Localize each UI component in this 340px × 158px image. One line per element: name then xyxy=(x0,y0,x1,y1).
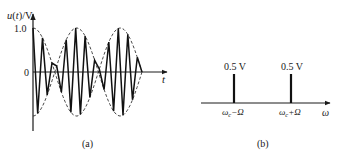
omega-axis-label: ω xyxy=(322,107,329,118)
caption-b: (b) xyxy=(257,138,269,150)
panel-b-spectrum: 0.5 V 0.5 V ωc−Ω ωc+Ω ω (b) xyxy=(201,61,330,150)
panel-a-waveform: u(t)/V 1.0 0 t (a) xyxy=(7,10,167,150)
spectral-value-upper: 0.5 V xyxy=(281,61,304,72)
caption-a: (a) xyxy=(82,138,93,150)
t-axis-label: t xyxy=(162,73,166,85)
y-axis-label: u(t)/V xyxy=(7,10,33,22)
spectral-value-lower: 0.5 V xyxy=(224,61,247,72)
figure: u(t)/V 1.0 0 t (a) 0.5 V 0.5 V ωc−Ω ωc+Ω… xyxy=(0,0,340,158)
freq-label-lower: ωc−Ω xyxy=(222,107,244,118)
y-tick-1: 1.0 xyxy=(14,23,27,34)
y-tick-0: 0 xyxy=(24,67,29,78)
freq-label-upper: ωc+Ω xyxy=(279,107,301,118)
